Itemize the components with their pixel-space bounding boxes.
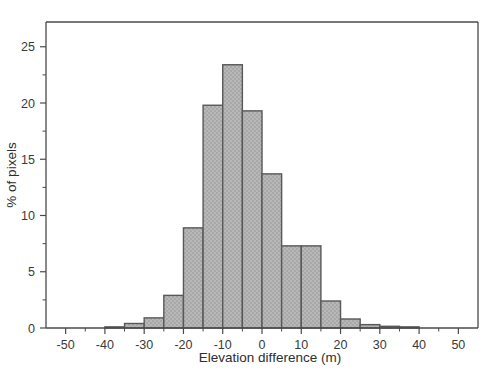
y-tick-label: 25 — [21, 40, 35, 54]
y-tick-label: 5 — [28, 265, 35, 279]
x-tick-label: -40 — [96, 338, 114, 352]
x-tick-label: -50 — [57, 338, 75, 352]
x-axis-title: Elevation difference (m) — [199, 350, 341, 365]
histogram-bar — [144, 318, 164, 328]
chart-canvas: -50-40-30-20-1001020304050 0510152025 El… — [0, 0, 492, 368]
histogram-bar — [321, 301, 341, 328]
histogram-chart: -50-40-30-20-1001020304050 0510152025 El… — [0, 0, 492, 368]
x-tick-label: -20 — [174, 338, 192, 352]
histogram-bar — [282, 246, 302, 328]
histogram-bar — [301, 246, 321, 328]
y-tick-label: 10 — [21, 209, 35, 223]
y-tick-label: 15 — [21, 153, 35, 167]
x-tick-label: 30 — [373, 338, 387, 352]
histogram-bar — [164, 295, 184, 328]
histogram-bar — [242, 111, 262, 328]
histogram-bar — [223, 65, 243, 328]
y-tick-label: 20 — [21, 97, 35, 111]
y-axis-title: % of pixels — [4, 142, 19, 208]
y-tick-label: 0 — [28, 322, 35, 336]
x-tick-label: 50 — [451, 338, 465, 352]
histogram-bar — [262, 174, 282, 328]
histogram-bar — [341, 319, 361, 328]
x-tick-label: 40 — [412, 338, 426, 352]
histogram-bar — [125, 324, 145, 329]
histogram-bar — [183, 228, 203, 328]
histogram-bar — [203, 105, 223, 328]
x-tick-label: -30 — [135, 338, 153, 352]
